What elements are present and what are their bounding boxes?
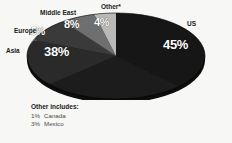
- footnote-mexico-value: 3%: [31, 120, 44, 128]
- category-label-asia: Asia: [6, 47, 20, 54]
- footnote-title: Other includes:: [31, 103, 79, 111]
- category-label-europe: Europe: [14, 27, 36, 34]
- category-label-other: Other*: [101, 3, 121, 10]
- footnote-canada-label: Canada: [44, 112, 66, 119]
- value-label-other: 4%: [94, 16, 109, 28]
- footnote-mexico-label: Mexico: [44, 120, 64, 127]
- category-label-us: US: [187, 20, 196, 27]
- footnote-item-mexico: 3%Mexico: [31, 120, 79, 128]
- footnote-block: Other includes: 1%Canada 3%Mexico: [31, 103, 79, 128]
- value-label-middle-east: 8%: [64, 18, 79, 30]
- value-label-asia: 38%: [44, 44, 69, 59]
- footnote-canada-value: 1%: [31, 112, 44, 120]
- category-label-middle-east: Middle East: [40, 9, 76, 16]
- footnote-item-canada: 1%Canada: [31, 112, 79, 120]
- pie-chart: 45% 38% 5% 8% 4% US Asia Europe Middle E…: [0, 0, 232, 143]
- value-label-us: 45%: [163, 37, 188, 52]
